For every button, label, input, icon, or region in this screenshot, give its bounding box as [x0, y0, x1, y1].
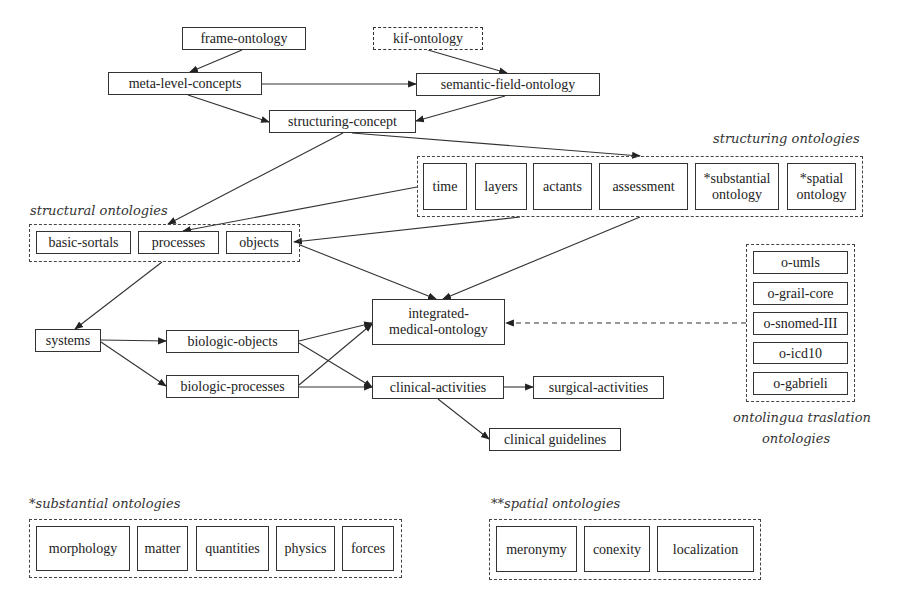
edge-group-to-objects [294, 217, 520, 242]
node-label-line2: ontology [712, 187, 762, 203]
node-label: basic-sortals [49, 235, 119, 250]
node-frame-ontology: frame-ontology [182, 27, 306, 50]
node-label: matter [145, 541, 181, 556]
group-label-ontolingua-line2: ontologies [762, 431, 830, 446]
edge-clinical-to-guidelines [438, 399, 489, 439]
node-label: o-snomed-III [764, 316, 838, 331]
node-matter: matter [137, 526, 188, 571]
node-label: forces [351, 541, 385, 556]
edge-systems-to-bobjects [101, 340, 166, 341]
node-label-line1: *substantial [704, 171, 771, 187]
node-label: clinical-activities [390, 380, 486, 395]
node-label: layers [484, 179, 517, 194]
node-label: o-grail-core [767, 286, 833, 301]
node-label: processes [152, 235, 206, 250]
node-label: objects [239, 235, 279, 250]
node-structuring-concept: structuring-concept [269, 110, 416, 133]
node-label: systems [46, 333, 90, 348]
node-label: assessment [612, 179, 674, 194]
edge-bobjects-to-integrated [299, 323, 372, 341]
edge-frame-to-meta [190, 50, 242, 72]
node-clinical-guidelines: clinical guidelines [489, 428, 621, 451]
node-label: biologic-objects [187, 334, 277, 349]
node-biologic-processes: biologic-processes [166, 375, 299, 398]
node-label: clinical guidelines [504, 432, 606, 447]
node-surgical-activities: surgical-activities [533, 376, 664, 399]
edge-meta-to-structuring [188, 95, 269, 122]
node-o-umls: o-umls [753, 251, 848, 274]
node-substantial-ontology: *substantial ontology [695, 163, 779, 210]
node-label: physics [285, 541, 327, 556]
edge-objects-to-integrated [300, 245, 436, 299]
edge-bobjects-to-clinical [299, 343, 372, 387]
node-label: morphology [49, 541, 117, 556]
node-label-line2: ontology [797, 187, 847, 203]
node-morphology: morphology [36, 526, 130, 571]
node-label: biologic-processes [180, 379, 284, 394]
node-objects: objects [226, 231, 292, 254]
node-basic-sortals: basic-sortals [36, 231, 131, 254]
node-systems: systems [35, 329, 101, 352]
node-label: meronymy [506, 542, 567, 557]
node-meronymy: meronymy [496, 526, 577, 572]
node-forces: forces [342, 526, 394, 571]
edge-bprocesses-to-integrated [299, 324, 372, 385]
edge-structuring-to-group [352, 133, 640, 156]
node-label: frame-ontology [200, 31, 287, 46]
node-meta-level-concepts: meta-level-concepts [108, 72, 262, 95]
node-label-line1: *spatial [800, 171, 844, 187]
node-label: actants [543, 179, 582, 194]
node-time: time [423, 163, 467, 210]
group-label-structuring: structuring ontologies [713, 131, 860, 146]
ontology-diagram: frame-ontology kif-ontology meta-level-c… [0, 0, 899, 615]
node-integrated-medical-ontology: integrated- medical-ontology [372, 299, 505, 345]
node-label: meta-level-concepts [129, 76, 242, 91]
edge-kif-to-semantic [428, 50, 507, 73]
group-label-ontolingua-line1: ontolingua traslation [733, 410, 871, 425]
node-label-line1: integrated- [408, 306, 469, 322]
node-o-grail-core: o-grail-core [753, 282, 848, 305]
group-label-structural: structural ontologies [30, 203, 168, 218]
node-label: quantities [205, 541, 259, 556]
node-actants: actants [533, 163, 592, 210]
node-processes: processes [138, 231, 219, 254]
node-label: o-icd10 [779, 346, 822, 361]
edge-group-to-integrated [443, 217, 640, 299]
node-physics: physics [276, 526, 335, 571]
node-kif-ontology: kif-ontology [373, 27, 483, 50]
edge-structuring-to-structural [168, 133, 343, 224]
node-label: semantic-field-ontology [441, 77, 576, 92]
edge-systems-to-bprocesses [101, 342, 166, 386]
node-conexity: conexity [584, 526, 650, 572]
edge-structural-to-systems [75, 262, 162, 329]
node-spatial-ontology: *spatial ontology [787, 163, 856, 210]
node-o-icd10: o-icd10 [753, 342, 848, 364]
node-label-line2: medical-ontology [389, 322, 488, 338]
node-label: surgical-activities [549, 380, 648, 395]
node-label: kif-ontology [393, 31, 463, 46]
node-label: localization [673, 542, 738, 557]
node-layers: layers [475, 163, 527, 210]
node-clinical-activities: clinical-activities [372, 376, 504, 399]
node-o-snomed-iii: o-snomed-III [753, 312, 848, 335]
node-biologic-objects: biologic-objects [166, 330, 299, 353]
node-label: time [433, 179, 458, 194]
node-assessment: assessment [599, 163, 688, 210]
node-label: o-gabrieli [773, 376, 827, 391]
node-label: conexity [593, 542, 641, 557]
node-label: structuring-concept [288, 114, 397, 129]
node-o-gabrieli: o-gabrieli [753, 372, 848, 395]
group-label-spatial: **spatial ontologies [491, 496, 620, 511]
node-label: o-umls [781, 255, 820, 270]
group-label-substantial: *substantial ontologies [29, 496, 180, 511]
node-semantic-field-ontology: semantic-field-ontology [416, 73, 600, 96]
node-quantities: quantities [196, 526, 269, 571]
node-localization: localization [657, 526, 754, 572]
edge-semantic-to-structuring [416, 96, 505, 121]
